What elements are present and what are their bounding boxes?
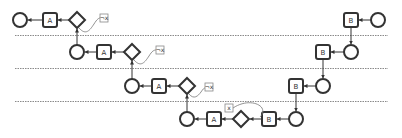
event-circle[interactable] — [70, 45, 84, 59]
gateway-diamond[interactable] — [233, 111, 249, 127]
gateway-diamond[interactable] — [69, 12, 85, 28]
activity-a-label: A — [212, 116, 217, 124]
event-circle[interactable] — [316, 79, 330, 93]
activity-a-label: A — [157, 83, 162, 91]
condition-not-x-label: ¬x — [156, 46, 165, 53]
event-circle[interactable] — [180, 112, 194, 126]
activity-b-label: B — [321, 49, 326, 57]
event-circle[interactable] — [125, 79, 139, 93]
event-circle[interactable] — [289, 112, 303, 126]
activity-b-label: B — [349, 17, 354, 25]
activity-b-label: B — [267, 116, 272, 124]
row-2: A ¬x B — [70, 29, 358, 78]
start-event-circle[interactable] — [371, 13, 385, 27]
activity-a-label: A — [48, 17, 53, 25]
row-1: B A ¬x — [13, 12, 385, 44]
condition-not-x-label: ¬x — [205, 83, 214, 90]
event-circle[interactable] — [344, 45, 358, 59]
condition-x-label: x — [227, 104, 231, 111]
process-diagram: B A ¬x A ¬x B — [0, 0, 402, 138]
condition-not-x-label: ¬x — [100, 14, 109, 21]
activity-a-label: A — [102, 49, 107, 57]
gateway-diamond[interactable] — [124, 44, 140, 60]
row-4: A B x — [180, 95, 303, 127]
gateway-diamond[interactable] — [179, 78, 195, 94]
end-event-circle[interactable] — [13, 13, 27, 27]
activity-b-label: B — [294, 83, 299, 91]
